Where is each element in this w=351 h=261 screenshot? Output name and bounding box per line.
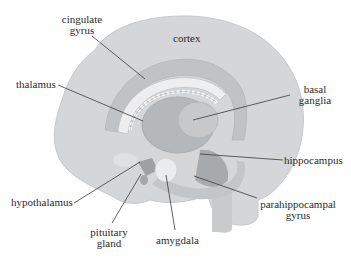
- lower-lobe-shape: [113, 153, 137, 167]
- label-hypothalamus: hypothalamus: [11, 197, 73, 208]
- label-pituitary-gland: pituitary gland: [84, 227, 134, 249]
- pituitary-gland-shape: [140, 175, 148, 185]
- label-cingulate-gyrus: cingulate gyrus: [57, 14, 107, 36]
- label-pituitary-line2: gland: [84, 238, 134, 249]
- label-thalamus: thalamus: [16, 79, 56, 90]
- label-amygdala: amygdala: [150, 235, 205, 246]
- label-parahippocampal-gyrus: parahippocampal gyrus: [258, 199, 338, 221]
- label-hippocampus: hippocampus: [284, 155, 343, 166]
- label-parahippocampal-line2: gyrus: [258, 210, 338, 221]
- label-basal-ganglia: basal ganglia: [290, 84, 340, 106]
- label-cingulate-gyrus-line2: gyrus: [57, 25, 107, 36]
- label-basal-ganglia-line2: ganglia: [290, 95, 340, 106]
- amygdala-shape: [155, 158, 177, 182]
- basal-ganglia-shape: [178, 102, 218, 138]
- label-cortex: cortex: [173, 33, 200, 44]
